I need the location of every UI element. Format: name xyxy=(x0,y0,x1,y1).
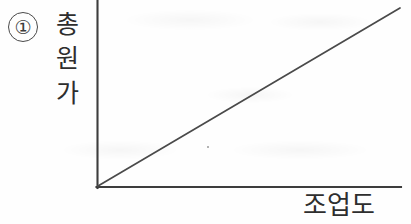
scan-speck xyxy=(207,146,209,148)
total-cost-line xyxy=(98,8,400,186)
cost-behavior-figure: ① 총 원 가 조업도 xyxy=(0,0,411,224)
x-axis-label: 조업도 xyxy=(303,190,375,221)
